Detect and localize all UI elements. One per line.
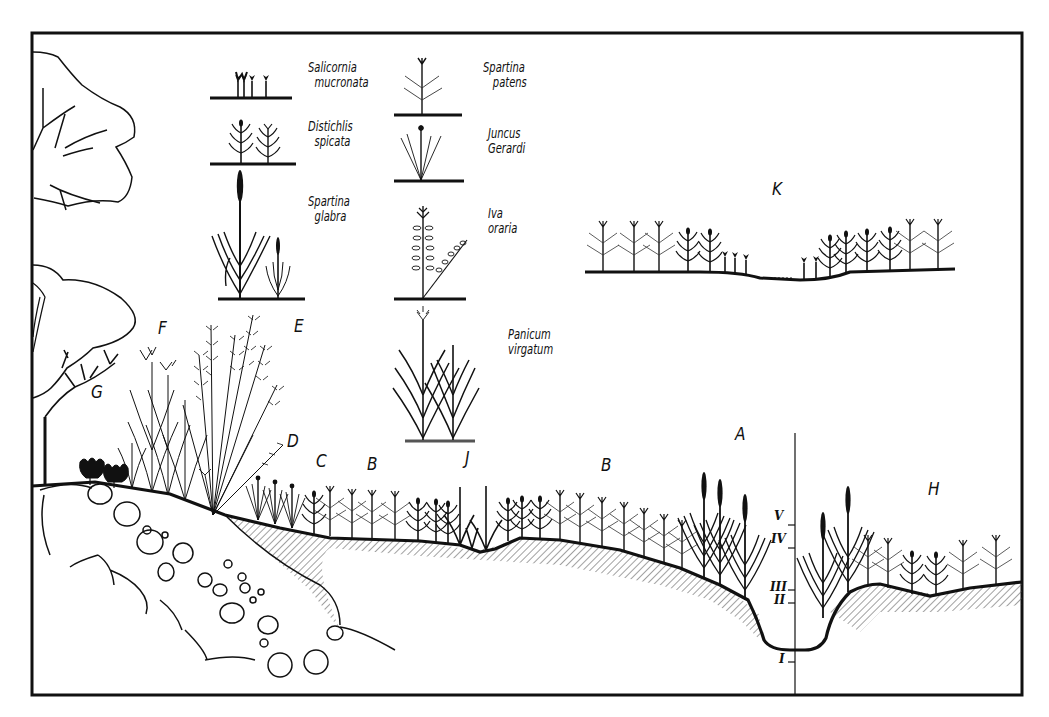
inset-k [585, 219, 955, 280]
zone-label-b-right: B [601, 456, 612, 475]
legend-label-iva: Iva oraria [488, 206, 517, 236]
genus-text: Spartina [308, 194, 350, 209]
legend-juncus-drawing [394, 125, 464, 181]
zone-b-left-grasses [302, 486, 460, 544]
species-text: virgatum [508, 342, 553, 357]
tide-level-i: I [779, 653, 785, 666]
legend-label-juncus: Juncus Gerardi [488, 126, 525, 156]
zone-label-j: J [465, 449, 470, 468]
tide-level-v: V [774, 510, 783, 523]
salt-marsh-diagram: Salicornia mucronata Distichlis spicata … [0, 0, 1049, 717]
legend-spartina-glabra-drawing [212, 170, 305, 299]
zone-label-k: K [772, 180, 782, 199]
legend-label-panicum: Panicum virgatum [508, 327, 553, 357]
zone-label-b-left: B [367, 455, 378, 474]
species-text: mucronata [308, 75, 369, 90]
genus-text: Distichlis [308, 119, 353, 134]
zone-label-c: C [316, 452, 327, 471]
zone-c-juncus [246, 476, 305, 528]
legend-iva-drawing [394, 206, 467, 299]
zone-label-d: D [287, 432, 299, 451]
legend-salicornia-drawing [210, 72, 292, 98]
legend-label-salicornia: Salicornia mucronata [308, 60, 369, 90]
legend-label-distichlis: Distichlis spicata [308, 119, 353, 149]
tide-scale [788, 433, 795, 695]
zone-f-grasses [118, 347, 207, 500]
tide-level-ii: II [774, 594, 785, 607]
legend-distichlis-drawing [210, 120, 296, 165]
genus-text: Spartina [483, 60, 527, 75]
species-text: oraria [488, 221, 517, 236]
legend-spartina-patens-drawing [394, 58, 462, 115]
species-text: glabra [308, 209, 350, 224]
legend-label-spartina-glabra: Spartina glabra [308, 194, 350, 224]
genus-text: Juncus [488, 126, 525, 141]
zone-label-e: E [294, 317, 304, 336]
genus-text: Iva [488, 206, 517, 221]
zone-label-a: A [735, 425, 745, 444]
zone-label-g: G [91, 383, 103, 402]
species-text: Gerardi [488, 141, 525, 156]
zone-j-glabra [444, 486, 502, 550]
genus-text: Salicornia [308, 60, 369, 75]
zone-label-h: H [928, 480, 940, 499]
legend-label-spartina-patens: Spartina patens [483, 60, 527, 90]
diagram-canvas [0, 0, 1049, 717]
legend-panicum-drawing [393, 306, 479, 441]
zone-label-f: F [158, 319, 167, 338]
species-text: spicata [308, 134, 353, 149]
tide-level-iv: IV [771, 533, 786, 546]
species-text: patens [483, 75, 527, 90]
tree-upper [33, 52, 135, 210]
genus-text: Panicum [508, 327, 553, 342]
zone-e-iva-bushes [183, 315, 284, 515]
